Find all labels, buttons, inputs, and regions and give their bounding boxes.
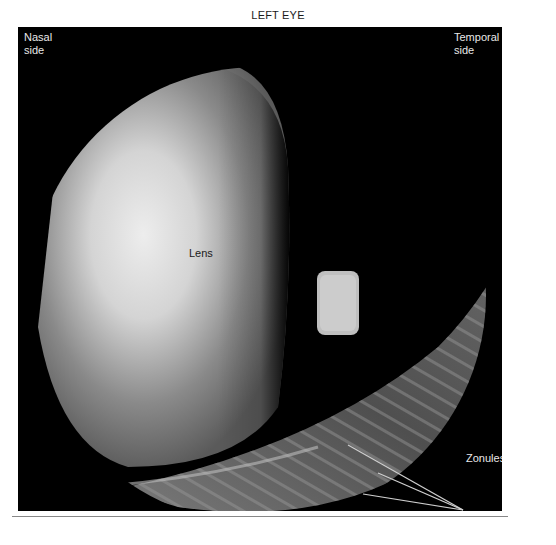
bottom-divider (12, 516, 508, 517)
nasal-side-label: Nasal side (24, 31, 52, 57)
nasal-label-line2: side (24, 44, 52, 57)
eye-photograph: Nasal side Temporal side Lens Pupil Zonu… (18, 27, 502, 511)
temporal-label-line2: side (454, 44, 499, 57)
figure-title: LEFT EYE (0, 9, 556, 21)
eye-image-illustration (18, 27, 502, 511)
lens-label: Lens (189, 247, 213, 260)
temporal-label-line1: Temporal (454, 31, 499, 44)
temporal-side-label: Temporal side (454, 31, 499, 57)
zonules-label: Zonules (466, 452, 502, 465)
nasal-label-line1: Nasal (24, 31, 52, 44)
